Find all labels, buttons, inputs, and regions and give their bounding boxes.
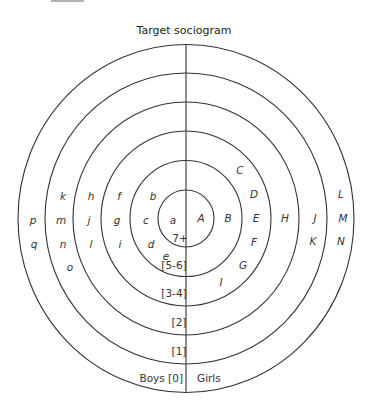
girl-node-A: A — [196, 212, 204, 224]
boy-node-k: k — [60, 190, 67, 202]
girl-node-J: J — [311, 212, 316, 224]
boy-node-h: h — [88, 190, 95, 202]
boy-node-n: n — [60, 238, 67, 250]
band-label-7plus: 7+ — [172, 232, 187, 244]
boy-node-b: b — [150, 190, 157, 202]
band-label-2: [2] — [172, 316, 187, 328]
girl-node-L: L — [338, 188, 344, 200]
boys-label: Boys [0] — [139, 372, 183, 384]
girl-node-E: E — [253, 212, 260, 224]
girl-node-N: N — [337, 235, 345, 247]
boy-node-c: c — [143, 214, 149, 226]
girl-node-M: M — [338, 212, 347, 224]
girl-node-D: D — [250, 188, 258, 200]
diagram-title: Target sociogram — [136, 24, 232, 37]
boy-node-l: l — [90, 238, 93, 250]
boy-node-j: j — [86, 214, 91, 226]
boy-node-a: a — [170, 214, 176, 226]
girl-node-G: G — [239, 259, 247, 271]
boy-node-o: o — [67, 261, 73, 273]
target-sociogram: Target sociogram 7+[5-6][3-4][2][1] abcd… — [0, 0, 376, 411]
boy-node-p: p — [29, 214, 37, 226]
boy-node-g: g — [114, 214, 121, 226]
girl-node-B: B — [224, 212, 231, 224]
boy-node-q: q — [31, 238, 38, 250]
boy-node-d: d — [148, 238, 155, 250]
girl-node-I: I — [219, 276, 222, 288]
girls-labels: ABCDEFGIHJKLMN — [196, 164, 347, 288]
boy-node-f: f — [117, 190, 123, 202]
band-label-3-4: [3-4] — [161, 287, 186, 299]
boy-node-i: i — [119, 238, 122, 250]
girl-node-K: K — [310, 235, 318, 247]
boy-node-e: e — [163, 250, 169, 262]
girl-node-F: F — [251, 236, 258, 248]
boy-node-m: m — [56, 214, 66, 226]
girl-node-C: C — [236, 164, 244, 176]
girls-label: Girls — [197, 372, 221, 384]
girl-node-H: H — [281, 212, 289, 224]
band-label-1: [1] — [172, 345, 187, 357]
